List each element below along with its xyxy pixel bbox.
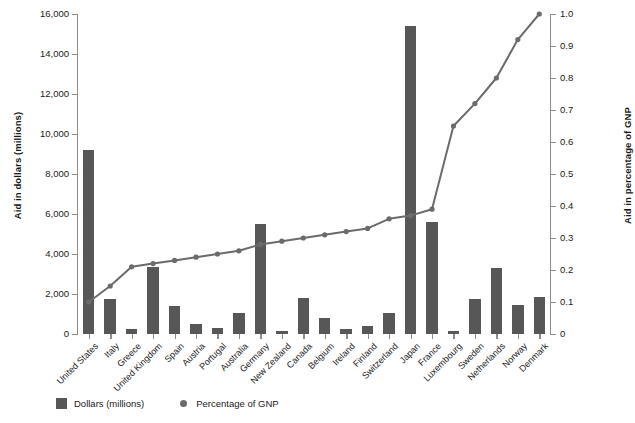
y-axis-left-tick bbox=[72, 94, 78, 95]
legend-item-dollars[interactable]: Dollars (millions) bbox=[56, 398, 144, 409]
x-axis-tick bbox=[132, 334, 133, 339]
y-axis-right-tick-label: 0 bbox=[560, 329, 565, 339]
bar[interactable] bbox=[255, 224, 267, 334]
y-axis-right-tick-label: 0.9 bbox=[560, 41, 573, 51]
bar[interactable] bbox=[83, 150, 95, 334]
line-data-point[interactable] bbox=[472, 101, 477, 106]
line-data-point[interactable] bbox=[236, 248, 241, 253]
line-data-point[interactable] bbox=[215, 251, 220, 256]
y-axis-left-title: Aid in dollars (millions) bbox=[12, 86, 23, 246]
bar[interactable] bbox=[469, 299, 481, 334]
y-axis-right-tick bbox=[550, 302, 556, 303]
chart-legend: Dollars (millions) Percentage of GNP bbox=[56, 398, 279, 409]
y-axis-right-tick-label: 0.2 bbox=[560, 265, 573, 275]
y-axis-left-tick-label: 10,000 bbox=[40, 129, 69, 139]
line-data-point[interactable] bbox=[322, 232, 327, 237]
line-data-point[interactable] bbox=[344, 229, 349, 234]
x-axis-tick bbox=[518, 334, 519, 339]
x-axis-tick bbox=[303, 334, 304, 339]
y-axis-left-tick-label: 6,000 bbox=[45, 209, 69, 219]
y-axis-right-tick bbox=[550, 142, 556, 143]
y-axis-right-tick-label: 0.6 bbox=[560, 137, 573, 147]
x-axis-label: United States bbox=[55, 341, 100, 386]
circle-dot-icon bbox=[180, 400, 187, 407]
line-data-point[interactable] bbox=[108, 283, 113, 288]
bar[interactable] bbox=[512, 305, 524, 334]
bar[interactable] bbox=[319, 318, 331, 334]
bar[interactable] bbox=[426, 222, 438, 334]
line-data-point[interactable] bbox=[515, 37, 520, 42]
legend-label-dollars: Dollars (millions) bbox=[74, 398, 144, 409]
y-axis-left-tick bbox=[72, 334, 78, 335]
y-axis-right-tick-label: 0.4 bbox=[560, 201, 573, 211]
line-data-point[interactable] bbox=[537, 11, 542, 16]
bar[interactable] bbox=[491, 268, 503, 334]
x-axis-tick bbox=[196, 334, 197, 339]
y-axis-right-tick bbox=[550, 334, 556, 335]
legend-item-percentage[interactable]: Percentage of GNP bbox=[178, 398, 278, 409]
x-axis-tick bbox=[260, 334, 261, 339]
x-axis-tick bbox=[389, 334, 390, 339]
x-axis-tick bbox=[475, 334, 476, 339]
legend-label-percentage: Percentage of GNP bbox=[196, 398, 278, 409]
y-axis-left-tick-label: 0 bbox=[64, 329, 69, 339]
percentage-of-gnp-points bbox=[86, 11, 542, 304]
line-data-point[interactable] bbox=[365, 226, 370, 231]
y-axis-left-tick-label: 8,000 bbox=[45, 169, 69, 179]
x-axis-tick bbox=[110, 334, 111, 339]
x-axis-tick bbox=[368, 334, 369, 339]
y-axis-right-title: Aid in percentage of GNP bbox=[622, 81, 633, 251]
line-data-point[interactable] bbox=[172, 258, 177, 263]
x-axis-tick bbox=[432, 334, 433, 339]
y-axis-right-tick-label: 1.0 bbox=[560, 9, 573, 19]
y-axis-right-tick-label: 0.8 bbox=[560, 73, 573, 83]
y-axis-left-tick bbox=[72, 134, 78, 135]
line-data-point[interactable] bbox=[129, 264, 134, 269]
bar[interactable] bbox=[104, 299, 116, 334]
x-axis-tick bbox=[346, 334, 347, 339]
bar[interactable] bbox=[534, 297, 546, 334]
y-axis-right-tick bbox=[550, 110, 556, 111]
y-axis-right-tick bbox=[550, 270, 556, 271]
y-axis-right-tick bbox=[550, 238, 556, 239]
y-axis-right-tick bbox=[550, 46, 556, 47]
y-axis-left-tick bbox=[72, 174, 78, 175]
y-axis-right-tick-label: 0.3 bbox=[560, 233, 573, 243]
x-axis-tick bbox=[453, 334, 454, 339]
line-data-point[interactable] bbox=[301, 235, 306, 240]
line-data-point[interactable] bbox=[429, 207, 434, 212]
x-axis-tick bbox=[282, 334, 283, 339]
x-axis-tick bbox=[239, 334, 240, 339]
line-data-point[interactable] bbox=[451, 123, 456, 128]
x-axis-tick bbox=[496, 334, 497, 339]
y-axis-right-tick bbox=[550, 206, 556, 207]
percentage-of-gnp-line bbox=[89, 14, 540, 302]
bar[interactable] bbox=[362, 326, 374, 334]
y-axis-left-tick bbox=[72, 214, 78, 215]
line-data-point[interactable] bbox=[150, 261, 155, 266]
line-data-point[interactable] bbox=[193, 255, 198, 260]
y-axis-right-tick bbox=[550, 14, 556, 15]
line-data-point[interactable] bbox=[279, 239, 284, 244]
y-axis-left-tick bbox=[72, 294, 78, 295]
bar[interactable] bbox=[147, 267, 159, 334]
y-axis-left-tick bbox=[72, 14, 78, 15]
x-axis-tick bbox=[175, 334, 176, 339]
bar[interactable] bbox=[405, 26, 417, 334]
bar[interactable] bbox=[190, 324, 202, 334]
x-axis-tick bbox=[153, 334, 154, 339]
bar[interactable] bbox=[169, 306, 181, 334]
y-axis-right-tick bbox=[550, 78, 556, 79]
line-data-point[interactable] bbox=[386, 216, 391, 221]
line-data-point[interactable] bbox=[494, 75, 499, 80]
y-axis-left-tick bbox=[72, 54, 78, 55]
bar[interactable] bbox=[298, 298, 310, 334]
y-axis-left-tick bbox=[72, 254, 78, 255]
y-axis-left-tick-label: 2,000 bbox=[45, 289, 69, 299]
x-axis-tick bbox=[411, 334, 412, 339]
y-axis-right-tick-label: 0.1 bbox=[560, 297, 573, 307]
bar[interactable] bbox=[233, 313, 245, 334]
bar[interactable] bbox=[383, 313, 395, 334]
x-axis-tick bbox=[89, 334, 90, 339]
y-axis-left-tick-label: 12,000 bbox=[40, 89, 69, 99]
